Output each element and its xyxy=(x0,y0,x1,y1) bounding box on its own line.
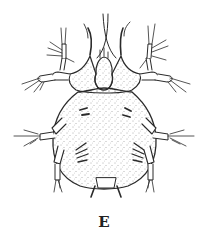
figure-label: E xyxy=(0,213,208,231)
